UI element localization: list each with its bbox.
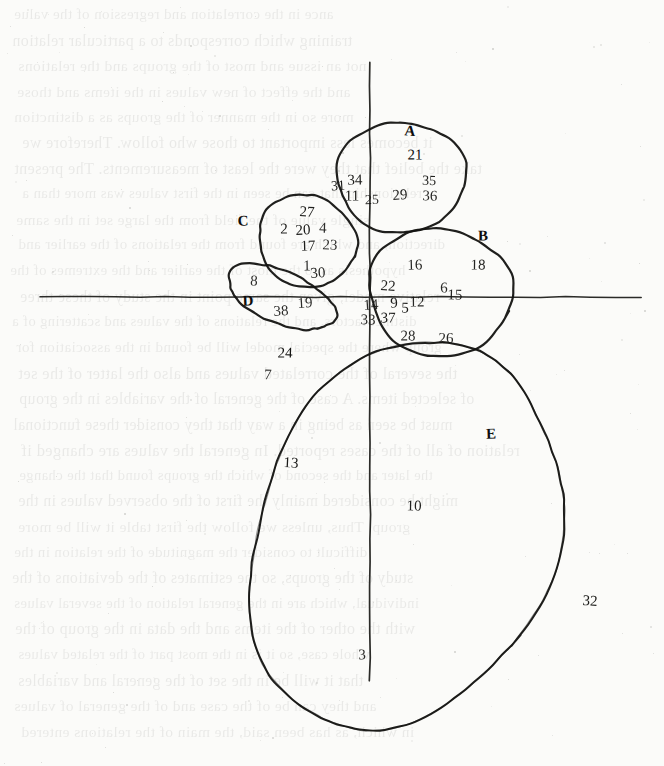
cluster-label-e: E (486, 426, 497, 441)
data-point-label: 24 (277, 345, 292, 360)
data-point-label: 17 (300, 238, 315, 253)
data-point-label: 27 (299, 204, 315, 220)
data-point-label: 15 (447, 287, 462, 302)
cluster-label-c: C (237, 213, 248, 228)
data-point-label: 8 (250, 273, 258, 288)
horizontal-axis (40, 297, 641, 298)
data-point-label: 22 (380, 278, 396, 294)
data-point-label: 33 (360, 312, 375, 327)
scanned-figure-page: ance in the correlation and regression o… (0, 0, 664, 766)
data-point-label: 18 (470, 257, 485, 272)
data-point-label: 25 (365, 193, 379, 207)
cluster-label-b: B (478, 228, 488, 243)
cluster-label-d: D (242, 293, 253, 308)
data-point-label: 9 (390, 295, 398, 310)
data-point-label: 16 (407, 257, 422, 272)
data-point-label: 12 (409, 294, 424, 309)
data-point-label: 32 (582, 593, 598, 609)
data-point-label: 26 (438, 330, 453, 345)
data-point-label: 37 (380, 310, 395, 325)
cluster-label-a: A (404, 123, 416, 139)
data-point-label: 7 (264, 367, 272, 382)
data-point-label: 10 (406, 498, 421, 513)
vertical-axis (369, 62, 370, 680)
data-point-label: 20 (295, 222, 311, 238)
data-point-label: 29 (392, 187, 408, 203)
data-point-label: 2 (280, 221, 288, 236)
cluster-diagram-svg (0, 0, 664, 766)
data-point-label: 5 (401, 300, 409, 315)
data-point-label: 3 (358, 647, 366, 662)
data-point-label: 34 (347, 172, 362, 187)
data-point-label: 38 (273, 303, 289, 319)
data-point-label: 36 (422, 188, 437, 203)
data-point-label: 13 (283, 455, 299, 471)
data-point-label: 21 (407, 147, 422, 162)
cluster-outlines-group (229, 123, 565, 732)
data-point-label: 23 (322, 237, 338, 253)
data-point-label: 19 (297, 295, 313, 311)
data-point-label: 28 (400, 328, 415, 343)
data-point-label: 31 (331, 179, 346, 194)
data-point-label: 11 (345, 188, 359, 203)
data-point-label: 4 (319, 220, 327, 235)
cluster-outline-e (249, 342, 565, 731)
data-point-label: 30 (310, 265, 326, 281)
data-point-label: 35 (422, 174, 436, 188)
